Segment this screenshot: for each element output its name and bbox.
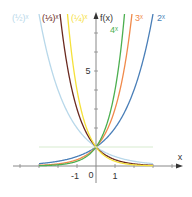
x-axis-arrow-icon <box>176 164 183 169</box>
exponential-chart: -1015xf(x)(½)ˣ(⅓)ˣ(¼)ˣ4ˣ3ˣ2ˣ <box>0 0 192 197</box>
legend-half: (½)ˣ <box>12 13 29 23</box>
x-tick-label: -1 <box>71 171 79 181</box>
x-axis-label: x <box>178 152 183 162</box>
legend-quarter: (¼)ˣ <box>71 13 88 23</box>
y-tick-label: 5 <box>85 66 90 76</box>
y-axis-arrow-icon <box>94 12 99 19</box>
axes <box>13 12 183 183</box>
legend-third: (⅓)ˣ <box>42 13 59 23</box>
x-tick-label: 0 <box>88 170 93 180</box>
x-tick-label: 1 <box>112 171 117 181</box>
legend-3x: 3ˣ <box>135 13 143 23</box>
legend-2x: 2ˣ <box>157 13 165 23</box>
y-axis-label: f(x) <box>100 13 113 23</box>
legend-4x: 4ˣ <box>110 25 118 35</box>
